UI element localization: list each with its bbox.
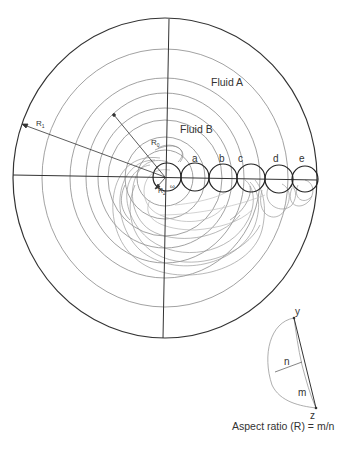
aspect-ratio-caption: Aspect ratio (R) = m/n — [232, 420, 334, 432]
r0-label: R0 — [151, 138, 160, 148]
r0-subscript: 0 — [157, 142, 160, 148]
horizontal-axis — [13, 175, 317, 180]
point-y-label: y — [295, 306, 300, 317]
fluid-a-label: Fluid A — [211, 76, 243, 88]
position-label-d: d — [273, 153, 279, 164]
r1-label: R1 — [36, 119, 45, 129]
aspect-ratio-inset: y z n m — [268, 306, 318, 421]
length-m-label: m — [298, 387, 306, 398]
advection-traces — [113, 145, 313, 275]
point-z-marker — [315, 407, 318, 410]
point-y-marker — [293, 317, 296, 320]
r0-arrowhead — [113, 114, 116, 117]
position-label-e: e — [299, 153, 305, 164]
fluid-b-label: Fluid B — [180, 123, 213, 135]
position-label-a: a — [192, 153, 198, 164]
circle-e — [292, 166, 318, 192]
position-label-b: b — [219, 153, 225, 164]
omega-label: ω — [170, 183, 175, 189]
vertical-axis — [163, 19, 169, 338]
r2-label: R2 — [158, 187, 166, 196]
r1-arrowhead — [22, 124, 28, 128]
position-label-c: c — [238, 153, 243, 164]
r1-subscript: 1 — [42, 123, 45, 129]
striation-shape — [268, 318, 316, 408]
mixing-diagram: Fluid A Fluid B R1 R0 R2 ω a b c d e y z… — [0, 0, 342, 455]
width-n-label: n — [284, 356, 290, 367]
